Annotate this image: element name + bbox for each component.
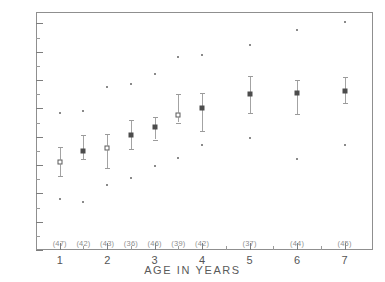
outlier-point bbox=[130, 177, 132, 179]
y-tick-major bbox=[36, 222, 43, 223]
sample-size-label: (39) bbox=[171, 239, 185, 248]
outlier-point bbox=[249, 44, 251, 46]
y-tick-minor bbox=[36, 208, 40, 209]
y-tick-major bbox=[36, 165, 43, 166]
mean-marker bbox=[57, 160, 62, 165]
outlier-point bbox=[130, 83, 132, 85]
error-bar-cap-upper bbox=[248, 76, 253, 77]
mean-marker bbox=[342, 89, 347, 94]
error-bar-cap-upper bbox=[129, 120, 134, 121]
error-bar-cap-lower bbox=[58, 176, 63, 177]
outlier-point bbox=[106, 86, 108, 88]
y-tick-minor bbox=[36, 38, 40, 39]
chart-title bbox=[150, 0, 370, 2]
error-bar-cap-lower bbox=[153, 140, 158, 141]
error-bar-cap-upper bbox=[81, 135, 86, 136]
error-bar-cap-lower bbox=[295, 114, 300, 115]
error-bar-cap-lower bbox=[248, 113, 253, 114]
mean-marker bbox=[247, 92, 252, 97]
sample-size-label: (45) bbox=[337, 239, 351, 248]
y-tick-minor bbox=[36, 94, 40, 95]
outlier-point bbox=[82, 110, 84, 112]
outlier-point bbox=[249, 137, 251, 139]
error-bar-cap-upper bbox=[343, 77, 348, 78]
outlier-point bbox=[296, 158, 298, 160]
sample-size-label: (47) bbox=[53, 239, 67, 248]
error-bar-cap-lower bbox=[176, 123, 181, 124]
mean-marker bbox=[81, 148, 86, 153]
error-bar bbox=[83, 135, 84, 159]
outlier-point bbox=[344, 144, 346, 146]
y-tick-minor bbox=[36, 66, 40, 67]
outlier-point bbox=[177, 157, 179, 159]
error-bar-cap-upper bbox=[105, 134, 110, 135]
x-tick-label: 7 bbox=[333, 254, 357, 266]
outlier-point bbox=[59, 112, 61, 114]
error-bar bbox=[107, 134, 108, 168]
outlier-point bbox=[344, 21, 346, 23]
error-bar-cap-lower bbox=[129, 149, 134, 150]
x-tick-minor bbox=[273, 246, 274, 250]
outlier-point bbox=[201, 144, 203, 146]
outlier-point bbox=[177, 56, 179, 58]
y-tick-major bbox=[36, 80, 43, 81]
error-bar bbox=[202, 93, 203, 131]
sample-size-label: (42) bbox=[76, 239, 90, 248]
outlier-point bbox=[201, 54, 203, 56]
error-bar-cap-upper bbox=[295, 80, 300, 81]
y-tick-major bbox=[36, 108, 43, 109]
outlier-point bbox=[82, 201, 84, 203]
sample-size-label: (42) bbox=[195, 239, 209, 248]
sample-size-label: (36) bbox=[124, 239, 138, 248]
x-tick-minor bbox=[226, 246, 227, 250]
sample-size-label: (37) bbox=[243, 239, 257, 248]
y-tick-major bbox=[36, 193, 43, 194]
y-tick-major bbox=[36, 137, 43, 138]
mean-marker bbox=[200, 106, 205, 111]
plot-area: 020406080100120140160 (47)(42)(43)(36)(4… bbox=[36, 12, 373, 250]
chart-root: 020406080100120140160 (47)(42)(43)(36)(4… bbox=[0, 0, 385, 282]
error-bar-cap-upper bbox=[176, 94, 181, 95]
mean-marker bbox=[105, 146, 110, 151]
x-tick-label: 6 bbox=[285, 254, 309, 266]
error-bar-cap-upper bbox=[153, 117, 158, 118]
y-tick-minor bbox=[36, 179, 40, 180]
error-bar-cap-lower bbox=[343, 103, 348, 104]
sample-size-label: (44) bbox=[290, 239, 304, 248]
error-bar bbox=[178, 94, 179, 122]
y-tick-minor bbox=[36, 151, 40, 152]
x-tick-label: 5 bbox=[238, 254, 262, 266]
y-tick-major bbox=[36, 250, 43, 251]
error-bar-cap-lower bbox=[105, 168, 110, 169]
outlier-point bbox=[106, 184, 108, 186]
sample-size-label: (46) bbox=[148, 239, 162, 248]
outlier-point bbox=[296, 29, 298, 31]
y-tick-minor bbox=[36, 123, 40, 124]
y-tick-minor bbox=[36, 236, 40, 237]
error-bar-cap-upper bbox=[200, 93, 205, 94]
error-bar bbox=[297, 80, 298, 114]
outlier-point bbox=[154, 165, 156, 167]
sample-size-label: (43) bbox=[100, 239, 114, 248]
outlier-point bbox=[154, 73, 156, 75]
y-tick-major bbox=[36, 23, 43, 24]
error-bar-cap-upper bbox=[58, 147, 63, 148]
error-bar-cap-lower bbox=[200, 131, 205, 132]
mean-marker bbox=[128, 133, 133, 138]
x-tick-label: 4 bbox=[190, 254, 214, 266]
x-tick-label: 1 bbox=[48, 254, 72, 266]
x-tick-label: 3 bbox=[143, 254, 167, 266]
mean-marker bbox=[152, 124, 157, 129]
mean-marker bbox=[295, 90, 300, 95]
y-tick-major bbox=[36, 52, 43, 53]
error-bar-cap-lower bbox=[81, 159, 86, 160]
outlier-point bbox=[59, 198, 61, 200]
x-tick-minor bbox=[321, 246, 322, 250]
mean-marker bbox=[176, 113, 181, 118]
x-tick-label: 2 bbox=[95, 254, 119, 266]
